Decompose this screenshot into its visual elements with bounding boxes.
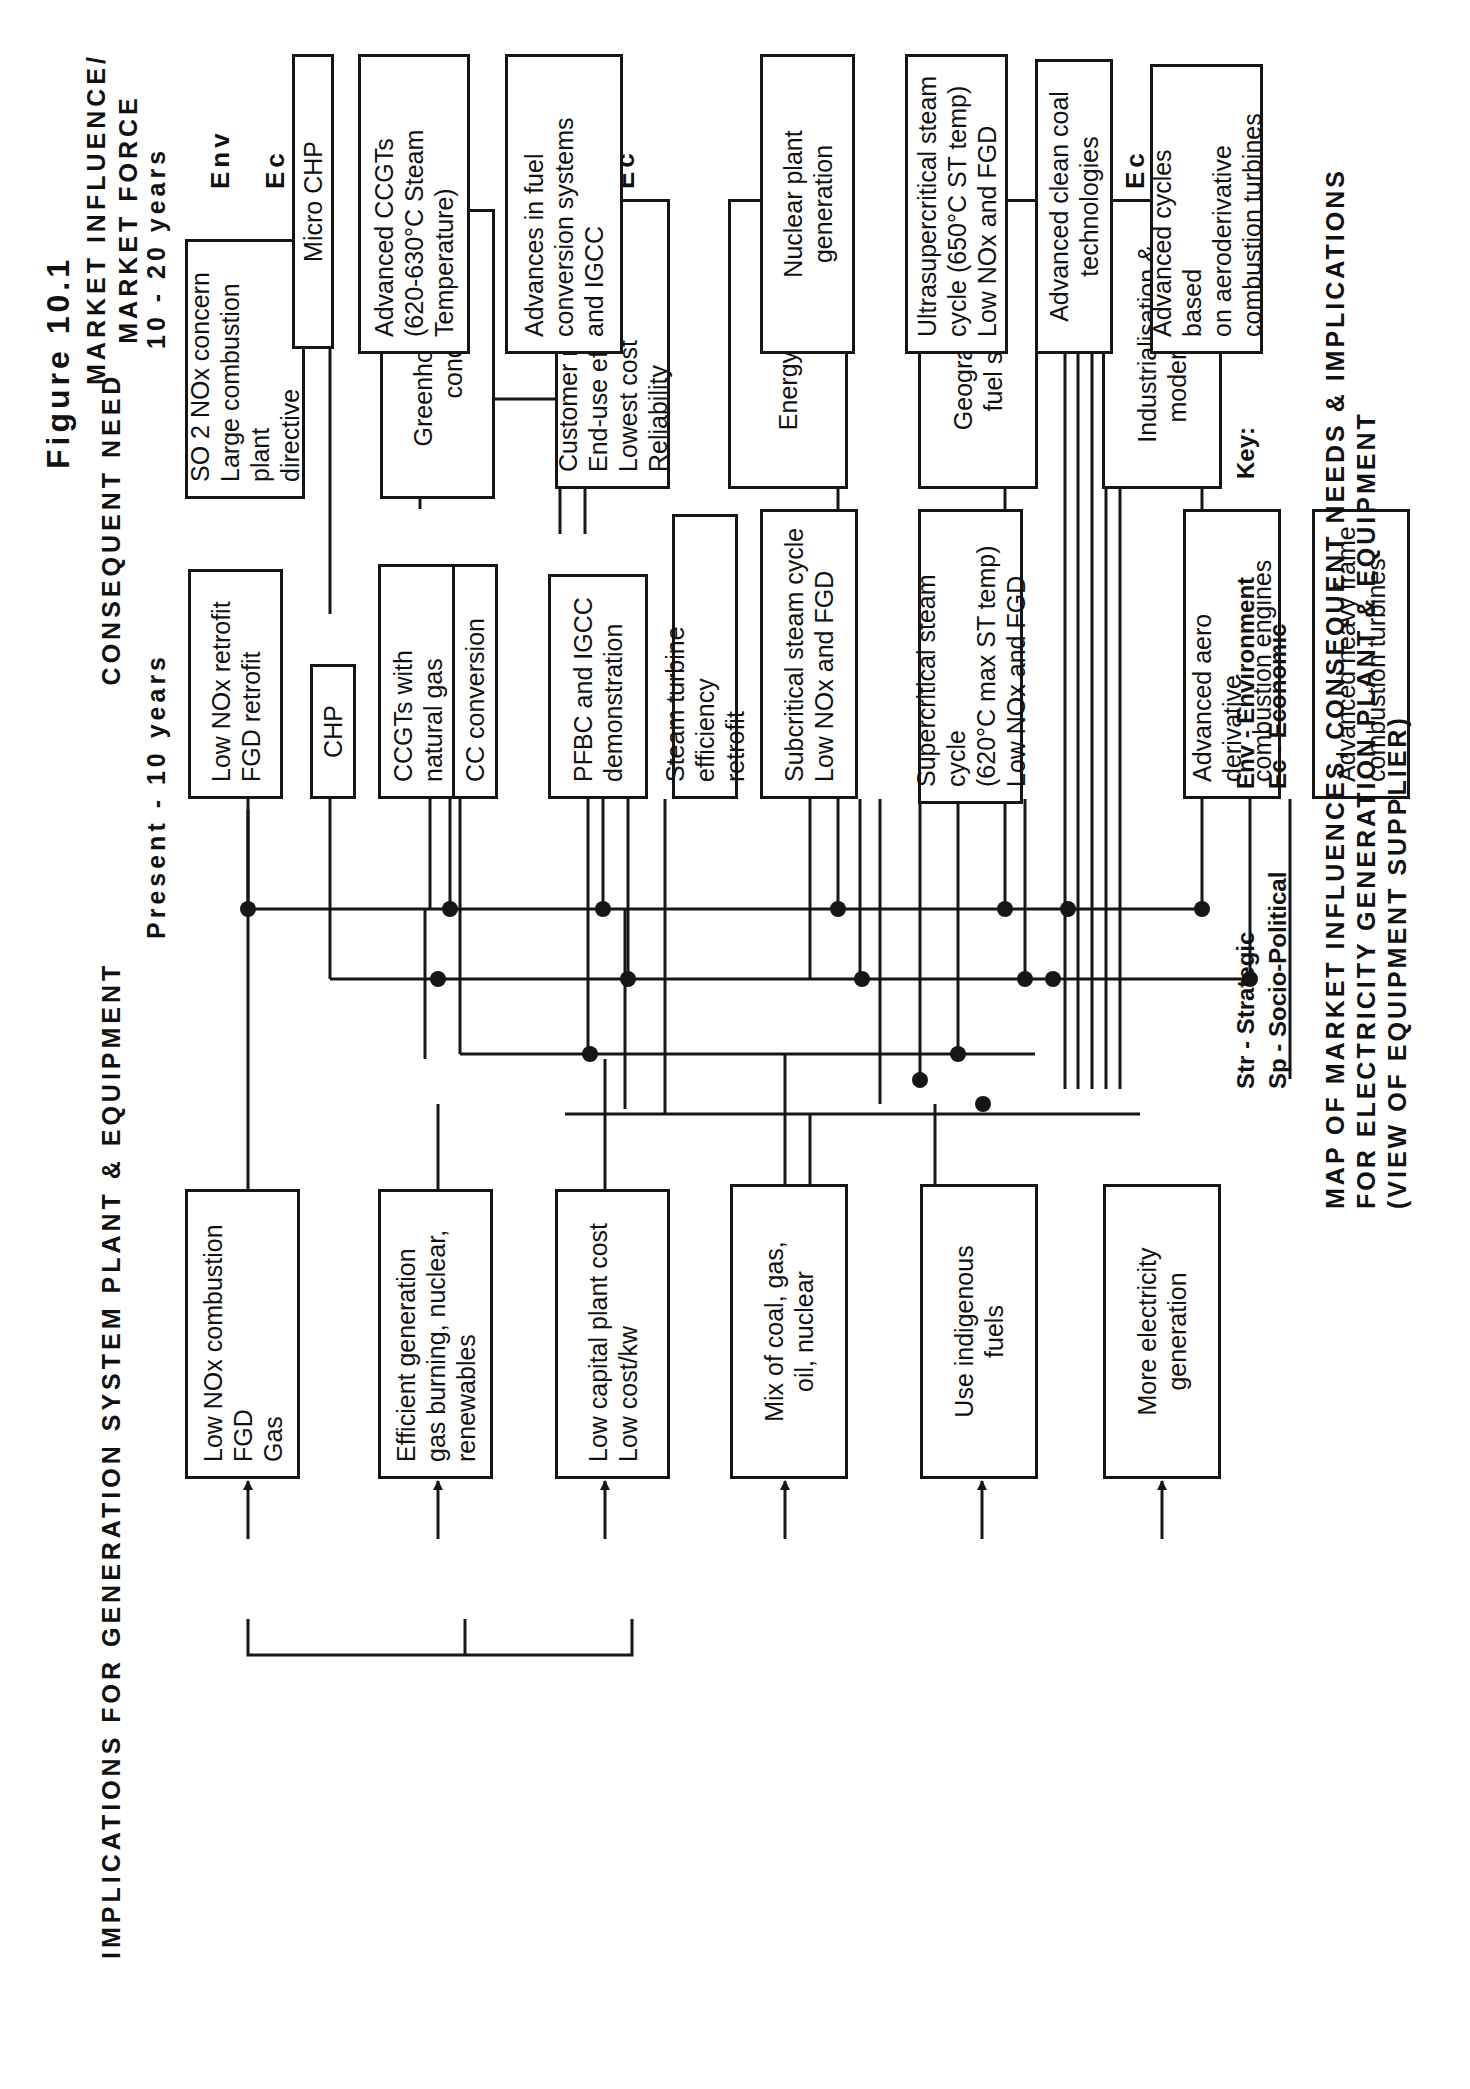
header-near-term: Present - 10 years xyxy=(140,539,172,939)
long-term-text: Ultrasupercritical steam cycle (650°C ST… xyxy=(912,76,1002,337)
long-term-text: Advanced cycles based on aeroderivative … xyxy=(1147,81,1267,337)
near-term-box-ccgts: CCGTs with natural gas xyxy=(378,564,458,799)
market-force-box-so2-nox: SO 2 NOx concern Large combustion plant … xyxy=(185,239,305,499)
need-box-more-generation: More electricity generation xyxy=(1103,1184,1221,1479)
figure-caption: MAP OF MARKET INFLUENCES, CONSEQUENT NEE… xyxy=(1320,9,1413,1209)
need-text: Mix of coal, gas, oil, nuclear xyxy=(759,1241,819,1422)
need-text: Use indigenous fuels xyxy=(949,1245,1009,1417)
near-term-box-cc-conversion: CC conversion xyxy=(452,564,498,799)
need-text: More electricity generation xyxy=(1132,1247,1192,1415)
near-term-box-pfbc-igcc: PFBC and IGCC demonstration xyxy=(548,574,648,799)
market-force-text: SO 2 NOx concern Large combustion plant … xyxy=(185,256,305,482)
near-term-text: Low NOx retrofit FGD retrofit xyxy=(206,601,266,782)
near-term-text: Steam turbine efficiency retrofit xyxy=(660,531,750,782)
long-term-text: Advances in fuel conversion systems and … xyxy=(519,117,609,337)
key-abbr: Env xyxy=(1232,745,1259,789)
near-term-text: CC conversion xyxy=(460,618,490,782)
long-term-text: Nuclear plant generation xyxy=(778,130,838,277)
need-box-low-capital-cost: Low capital plant cost Low cost/kw xyxy=(555,1189,670,1479)
key-abbr: Sp xyxy=(1264,1058,1291,1089)
tag-env: Env xyxy=(205,129,236,189)
near-term-box-retrofit: Low NOx retrofit FGD retrofit xyxy=(188,569,283,799)
key-label: Key: xyxy=(1230,427,1262,479)
implications-header-row: IMPLICATIONS FOR GENERATION SYSTEM PLANT… xyxy=(95,359,135,1959)
long-term-text: Advanced clean coal technologies xyxy=(1044,91,1104,322)
need-text: Low NOx combustion FGD Gas xyxy=(198,1224,288,1462)
key-separator: - xyxy=(1232,730,1259,738)
header-long-term: 10 - 20 years xyxy=(140,29,172,349)
key-meaning: Strategic xyxy=(1232,932,1259,1035)
key-abbr: Ec xyxy=(1264,760,1291,789)
figure-label: Figure 10.1 xyxy=(40,256,77,469)
need-text: Efficient generation gas burning, nuclea… xyxy=(391,1230,481,1462)
long-term-text: Advanced CCGTs (620-630°C Steam Temperat… xyxy=(369,130,459,337)
need-box-efficient-generation: Efficient generation gas burning, nuclea… xyxy=(378,1189,493,1479)
need-text: Low capital plant cost Low cost/kw xyxy=(583,1223,643,1462)
diagram-canvas: Figure 10.1 MARKET INFLUENCE/ MARKET FOR… xyxy=(0,0,1470,2089)
key-separator: - xyxy=(1264,745,1291,753)
header-implications-title: IMPLICATIONS FOR GENERATION SYSTEM PLANT… xyxy=(95,259,127,1959)
near-term-box-subcritical: Subcritical steam cycle Low NOx and FGD xyxy=(760,509,858,799)
near-term-box-steam-turbine-retrofit: Steam turbine efficiency retrofit xyxy=(672,514,738,799)
key-entry-sp: Sp - Socio-Political xyxy=(1262,789,1294,1089)
near-term-text: CHP xyxy=(318,705,348,758)
key-abbr: Str xyxy=(1232,1056,1259,1089)
need-box-fuel-mix: Mix of coal, gas, oil, nuclear xyxy=(730,1184,848,1479)
tag-ec: Ec xyxy=(260,149,291,189)
need-box-indigenous-fuels: Use indigenous fuels xyxy=(920,1184,1038,1479)
key-entry-ec: Ec - Economic xyxy=(1262,489,1294,789)
key-meaning: Economic xyxy=(1264,624,1291,739)
key-meaning: Socio-Political xyxy=(1264,872,1291,1037)
near-term-box-chp: CHP xyxy=(310,664,356,799)
near-term-text: Subcritical steam cycle Low NOx and FGD xyxy=(779,528,839,782)
key-meaning: Environment xyxy=(1232,577,1259,724)
near-term-text: Supercritical steam cycle (620°C max ST … xyxy=(911,526,1031,787)
key-entry-env: Env - Environment xyxy=(1230,489,1262,789)
key-entry-str: Str - Strategic xyxy=(1230,789,1262,1089)
key-separator: - xyxy=(1264,1044,1291,1052)
long-term-box-ultrasupercritical: Ultrasupercritical steam cycle (650°C ST… xyxy=(905,54,1008,354)
long-term-box-nuclear: Nuclear plant generation xyxy=(760,54,855,354)
need-box-low-nox: Low NOx combustion FGD Gas xyxy=(185,1189,300,1479)
key-separator: - xyxy=(1232,1041,1259,1049)
near-term-text: PFBC and IGCC demonstration xyxy=(568,597,628,782)
long-term-box-fuel-conversion: Advances in fuel conversion systems and … xyxy=(505,54,623,354)
long-term-box-advanced-ccgts: Advanced CCGTs (620-630°C Steam Temperat… xyxy=(358,54,470,354)
near-term-box-supercritical: Supercritical steam cycle (620°C max ST … xyxy=(918,509,1023,804)
long-term-text: Micro CHP xyxy=(298,141,328,262)
long-term-box-aeroderivative-cycles: Advanced cycles based on aeroderivative … xyxy=(1150,64,1263,354)
long-term-box-micro-chp: Micro CHP xyxy=(292,54,334,349)
near-term-text: CCGTs with natural gas xyxy=(388,650,448,782)
long-term-box-clean-coal: Advanced clean coal technologies xyxy=(1035,59,1113,354)
